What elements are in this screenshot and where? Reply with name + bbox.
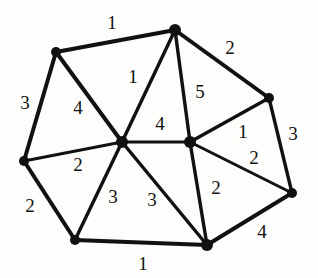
edge-top-left-to-center-weight-label: 4 <box>73 98 83 117</box>
node-mid-right <box>184 136 196 148</box>
edge-right-upper-to-mid-right <box>190 98 269 142</box>
edge-top-left-to-top <box>56 30 175 52</box>
edge-top-left-to-top-weight-label: 1 <box>107 13 117 32</box>
edge-right-upper-to-mid-right-weight-label: 1 <box>238 122 248 141</box>
node-top-left <box>51 47 61 57</box>
edge-top-to-right-upper-weight-label: 2 <box>225 38 235 57</box>
node-left <box>19 156 29 166</box>
edge-bottom-left-to-bottom-right-weight-label: 1 <box>138 254 148 273</box>
edge-right-upper-to-right-far <box>269 98 292 193</box>
node-right-upper <box>264 93 274 103</box>
edge-top-left-to-center <box>56 52 122 142</box>
edge-top-to-center-weight-label: 1 <box>128 67 138 86</box>
edge-left-to-bottom-left-weight-label: 2 <box>25 196 35 215</box>
edge-top-left-to-left-weight-label: 3 <box>20 93 30 112</box>
edges-layer <box>24 30 292 245</box>
edge-mid-right-to-right-far-weight-label: 2 <box>249 148 259 167</box>
node-right-far <box>287 188 297 198</box>
edge-left-to-center-weight-label: 2 <box>73 155 83 174</box>
node-bottom-right <box>201 239 213 251</box>
edge-mid-right-to-bottom-right-weight-label: 2 <box>211 178 221 197</box>
edge-top-to-mid-right <box>175 30 190 142</box>
graph-canvas <box>0 0 318 278</box>
edge-mid-right-to-right-far <box>190 142 292 193</box>
node-bottom-left <box>70 235 80 245</box>
node-top <box>169 24 181 36</box>
edge-bottom-right-to-right-far <box>207 193 292 245</box>
edge-bottom-right-to-right-far-weight-label: 4 <box>257 222 267 241</box>
edge-right-upper-to-right-far-weight-label: 3 <box>288 124 298 143</box>
edge-bottom-left-to-bottom-right <box>75 240 207 245</box>
edge-top-to-mid-right-weight-label: 5 <box>195 82 205 101</box>
edge-top-to-right-upper <box>175 30 269 98</box>
edge-bottom-left-to-center-weight-label: 3 <box>108 187 118 206</box>
node-center <box>116 136 128 148</box>
edge-center-to-mid-right-weight-label: 4 <box>155 114 165 133</box>
graph-figure: 12341541322233241 <box>0 0 318 278</box>
edge-center-to-bottom-right-weight-label: 3 <box>147 190 157 209</box>
